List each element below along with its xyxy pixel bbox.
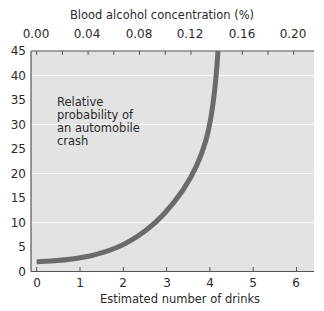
ytick-20: 20 bbox=[0, 167, 26, 181]
ytick-5: 5 bbox=[0, 240, 26, 254]
annotation-line-4: crash bbox=[57, 135, 147, 148]
ytick-10: 10 bbox=[0, 216, 26, 230]
xtick-3: 3 bbox=[163, 276, 171, 290]
xtick-4: 4 bbox=[206, 276, 214, 290]
curve-annotation: Relative probability of an automobile cr… bbox=[57, 96, 147, 148]
ytick-35: 35 bbox=[0, 93, 26, 107]
xtick-6: 6 bbox=[292, 276, 300, 290]
plot-background bbox=[31, 51, 314, 272]
ytick-30: 30 bbox=[0, 118, 26, 132]
ytick-0: 0 bbox=[0, 265, 26, 279]
xtick-2: 2 bbox=[119, 276, 127, 290]
x-axis-label: Estimated number of drinks bbox=[40, 292, 320, 306]
xtick-1: 1 bbox=[76, 276, 84, 290]
xtick-0: 0 bbox=[33, 276, 41, 290]
ytick-25: 25 bbox=[0, 142, 26, 156]
ytick-40: 40 bbox=[0, 69, 26, 83]
xtick-5: 5 bbox=[249, 276, 257, 290]
ytick-45: 45 bbox=[0, 44, 26, 58]
plot-area bbox=[0, 0, 324, 311]
ytick-15: 15 bbox=[0, 191, 26, 205]
